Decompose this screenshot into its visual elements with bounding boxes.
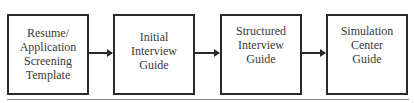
bottom-divider	[7, 99, 409, 100]
arrow-right-icon	[302, 52, 325, 54]
node-label: Initial Interview Guide	[115, 16, 193, 72]
node-label: Structured Interview Guide	[222, 16, 300, 66]
arrow-right-icon	[195, 52, 219, 54]
arrow-right-icon	[89, 52, 112, 54]
node-structured-interview-guide: Structured Interview Guide	[220, 14, 302, 95]
node-label: Simulation Center Guide	[328, 16, 406, 66]
node-label: Resume/ Application Screening Template	[9, 16, 87, 82]
node-initial-interview-guide: Initial Interview Guide	[113, 14, 195, 95]
node-simulation-center-guide: Simulation Center Guide	[326, 14, 408, 95]
node-resume-application-screening-template: Resume/ Application Screening Template	[7, 14, 89, 95]
